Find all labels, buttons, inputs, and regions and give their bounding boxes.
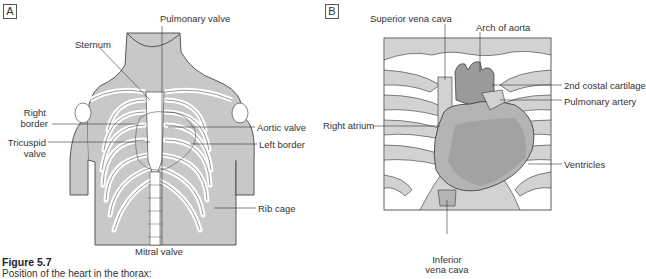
label-right-atrium: Right atrium (323, 120, 374, 131)
label-arch-of-aorta: Arch of aorta (476, 22, 530, 33)
label-rib-cage: Rib cage (258, 203, 296, 214)
label-right-border-line1: Right (22, 107, 46, 118)
label-left-border: Left border (259, 139, 305, 150)
label-ventricles: Ventricles (564, 159, 605, 170)
figure-number: Figure 5.7 (2, 256, 52, 268)
label-pulmonary-artery: Pulmonary artery (564, 96, 636, 107)
label-aortic-valve: Aortic valve (257, 122, 306, 133)
label-mitral-valve: Mitral valve (135, 246, 183, 257)
label-pulmonary-valve: Pulmonary valve (160, 13, 230, 24)
label-sternum: Sternum (75, 39, 111, 50)
label-second-costal-cartilage: 2nd costal cartilage (564, 80, 646, 91)
label-tricuspid-valve-line1: Tricuspid (0, 137, 46, 148)
panel-a-tag: A (3, 4, 17, 19)
label-superior-vena-cava: Superior vena cava (370, 13, 452, 24)
label-tricuspid-valve-line2: valve (16, 148, 46, 159)
label-right-border-line2: border (14, 118, 48, 129)
label-inferior-vena-cava-line2: vena cava (420, 264, 474, 275)
panel-b-tag: B (325, 4, 339, 19)
figure-caption: Position of the heart in the thorax: (2, 268, 152, 279)
